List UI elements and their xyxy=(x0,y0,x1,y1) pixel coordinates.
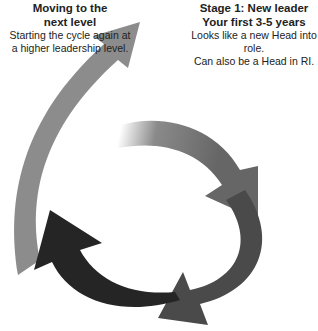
stage3-arrow xyxy=(34,210,180,307)
stage2-arrow xyxy=(158,190,262,325)
next-level-title-2: next level xyxy=(0,15,140,29)
stage1-desc-2: Can also be a Head in RI. xyxy=(190,55,318,68)
stage1-title-2: Your first 3-5 years xyxy=(190,15,318,29)
next-level-desc-2: a higher leadership level. xyxy=(0,42,140,55)
next-level-desc-1: Starting the cycle again at xyxy=(0,29,140,42)
stage1-label: Stage 1: New leader Your first 3-5 years… xyxy=(190,1,318,68)
stage1-desc-1: Looks like a new Head into role. xyxy=(190,29,318,55)
next-level-title-1: Moving to the xyxy=(0,1,140,15)
stage1-title-1: Stage 1: New leader xyxy=(190,1,318,15)
next-level-label: Moving to the next level Starting the cy… xyxy=(0,1,140,55)
